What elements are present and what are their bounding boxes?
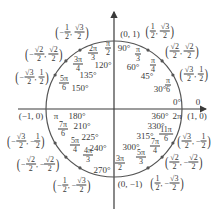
coord-270-label: (0, −1) (118, 180, 143, 189)
deg-120-label: 120° (94, 61, 111, 70)
deg-360-label: 360° (151, 112, 168, 121)
rad-330-label: 11π6 (159, 126, 173, 143)
rad-315-label: 7π4 (150, 138, 160, 155)
rad-90-label: π2 (105, 40, 111, 57)
coord-45-label: (√22, √22) (165, 43, 200, 60)
coord-300-label: (12, −√32) (150, 175, 185, 192)
rad-0-label: 0 (196, 98, 201, 107)
coord-210-label: (−√32, −12) (6, 133, 45, 150)
deg-180-label: 180° (68, 112, 85, 121)
rad-210-label: 7π6 (58, 121, 68, 138)
rad-300-label: 5π3 (136, 149, 146, 166)
diagram-graphics (0, 0, 219, 214)
coord-0-label: (1, 0) (187, 112, 207, 121)
coord-180-label: (−1, 0) (19, 112, 44, 121)
rad-30-label: π6 (165, 77, 171, 94)
rad-180-label: π (54, 112, 59, 121)
deg-225-label: 225° (81, 133, 98, 142)
coord-315-label: (√22, −√22) (164, 154, 203, 171)
rad-240-label: 4π3 (83, 147, 93, 164)
deg-90-label: 90° (118, 44, 131, 53)
rad-45-label: π4 (150, 57, 156, 74)
rad-270-label: 3π2 (115, 155, 125, 172)
deg-60-label: 60° (127, 63, 140, 72)
coord-120-label: (−12, √32) (55, 24, 90, 41)
unit-circle-diagram: 0° 0 30° π6 45° π4 60° π3 90° π2 (0, 1) … (0, 0, 219, 214)
coord-90-label: (0, 1) (120, 30, 140, 39)
coord-240-label: (−12, −√32) (52, 177, 91, 194)
rad-60-label: π3 (135, 46, 141, 63)
coord-330-label: (√32, −12) (177, 133, 212, 150)
deg-150-label: 150° (71, 84, 88, 93)
rad-150-label: 5π6 (59, 75, 69, 92)
coord-30-label: (√32, 12) (179, 66, 209, 83)
coord-135-label: (−√22, √22) (24, 46, 63, 63)
deg-270-label: 270° (93, 166, 110, 175)
coord-60-label: (12, √32) (145, 23, 175, 40)
rad-225-label: 5π4 (70, 137, 80, 154)
deg-0-label: 0° (173, 98, 181, 107)
deg-210-label: 210° (73, 122, 90, 131)
deg-135-label: 135° (79, 71, 96, 80)
coord-225-label: (−√22, −√22) (16, 156, 60, 173)
coord-150-label: (−√32, 12) (15, 69, 50, 86)
rad-360-label: 2π (172, 112, 181, 121)
